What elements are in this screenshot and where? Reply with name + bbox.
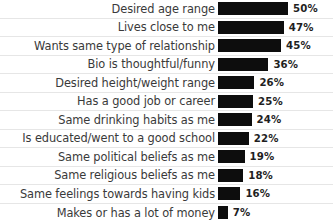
category-label: Desired age range (0, 3, 218, 15)
value-label: 18% (248, 170, 273, 181)
value-label: 16% (245, 188, 270, 199)
bar (218, 150, 245, 163)
chart-row: Same political beliefs as me19% (0, 148, 333, 167)
bar-area: 24% (218, 111, 333, 129)
chart-row: Lives close to me47% (0, 19, 333, 38)
value-label: 45% (286, 40, 311, 51)
bar-area: 50% (218, 0, 333, 18)
bar-area: 25% (218, 93, 333, 111)
value-label: 26% (259, 77, 284, 88)
chart-row: Makes or has a lot of money7% (0, 204, 333, 223)
chart-row: Same feelings towards having kids16% (0, 185, 333, 204)
chart-row: Same drinking habits as me24% (0, 111, 333, 130)
value-label: 36% (273, 59, 298, 70)
category-label: Wants same type of relationship (0, 40, 218, 52)
bar-area: 7% (218, 204, 333, 223)
chart-rows: Desired age range50%Lives close to me47%… (0, 0, 333, 222)
bar-area: 47% (218, 19, 333, 37)
value-label: 25% (258, 96, 283, 107)
bar-area: 22% (218, 130, 333, 148)
chart-row: Same religious beliefs as me18% (0, 167, 333, 186)
bar (218, 206, 228, 219)
category-label: Desired height/weight range (0, 77, 218, 89)
bar-area: 26% (218, 74, 333, 92)
chart-row: Desired height/weight range26% (0, 74, 333, 93)
value-label: 50% (293, 3, 318, 14)
chart-row: Wants same type of relationship45% (0, 37, 333, 56)
bar-area: 45% (218, 37, 333, 55)
category-label: Has a good job or career (0, 95, 218, 107)
value-label: 22% (254, 133, 279, 144)
bar (218, 187, 240, 200)
value-label: 19% (250, 151, 275, 162)
category-label: Makes or has a lot of money (0, 207, 218, 219)
chart-row: Bio is thoughtful/funny36% (0, 56, 333, 75)
chart-row: Desired age range50% (0, 0, 333, 19)
category-label: Lives close to me (0, 21, 218, 33)
category-label: Same drinking habits as me (0, 114, 218, 126)
bar (218, 2, 288, 15)
bar (218, 132, 249, 145)
category-label: Bio is thoughtful/funny (0, 58, 218, 70)
bar (218, 21, 284, 34)
bar (218, 76, 254, 89)
value-label: 24% (257, 114, 282, 125)
category-label: Same religious beliefs as me (0, 169, 218, 181)
bar (218, 113, 252, 126)
bar (218, 95, 253, 108)
value-label: 7% (233, 207, 251, 218)
horizontal-bar-chart: Desired age range50%Lives close to me47%… (0, 0, 333, 222)
bar-area: 19% (218, 148, 333, 166)
bar-area: 36% (218, 56, 333, 74)
bar (218, 58, 268, 71)
category-label: Same feelings towards having kids (0, 188, 218, 200)
bar (218, 169, 243, 182)
chart-row: Is educated/went to a good school22% (0, 130, 333, 149)
category-label: Is educated/went to a good school (0, 132, 218, 144)
bar-area: 16% (218, 185, 333, 203)
chart-row: Has a good job or career25% (0, 93, 333, 112)
value-label: 47% (289, 22, 314, 33)
category-label: Same political beliefs as me (0, 151, 218, 163)
bar-area: 18% (218, 167, 333, 185)
bar (218, 39, 281, 52)
